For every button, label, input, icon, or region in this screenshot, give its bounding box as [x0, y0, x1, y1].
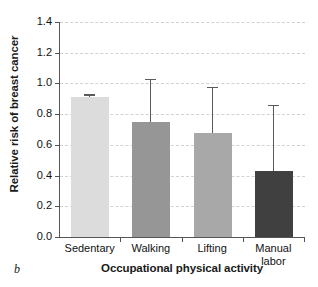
- error-bar-cap: [268, 105, 279, 106]
- bar-group: [60, 22, 121, 237]
- y-axis-tick-label: 1.2: [22, 47, 52, 58]
- bar: [255, 171, 293, 237]
- y-axis-tick-label: 0.8: [22, 108, 52, 119]
- error-bar-cap: [84, 94, 95, 95]
- bar: [132, 122, 170, 237]
- y-axis-tick-label: 1.4: [22, 16, 52, 27]
- x-axis-title: Occupational physical activity: [59, 262, 305, 274]
- bar-chart-figure: Relative risk of breast cancer 0.00.20.4…: [0, 0, 318, 287]
- error-bar-line: [212, 88, 213, 133]
- bar: [194, 133, 232, 237]
- y-axis-tick-label: 0.2: [22, 200, 52, 211]
- error-bar-line: [150, 80, 151, 121]
- y-axis-tick-label: 0.0: [22, 231, 52, 242]
- panel-label: b: [14, 262, 20, 277]
- y-axis-tick-label: 0.6: [22, 139, 52, 150]
- error-bar-cap: [145, 79, 156, 80]
- plot-area: [59, 22, 305, 237]
- error-bar-line: [89, 96, 90, 98]
- y-axis-title: Relative risk of breast cancer: [8, 4, 20, 224]
- x-axis-tick-label-line: Manual: [236, 242, 310, 255]
- bar: [71, 97, 109, 237]
- y-axis-tick-label: 1.0: [22, 77, 52, 88]
- bar-group: [121, 22, 182, 237]
- bar-group: [244, 22, 305, 237]
- y-axis-tick-label: 0.4: [22, 170, 52, 181]
- error-bar-line: [273, 106, 274, 171]
- error-bar-cap: [207, 87, 218, 88]
- bar-group: [183, 22, 244, 237]
